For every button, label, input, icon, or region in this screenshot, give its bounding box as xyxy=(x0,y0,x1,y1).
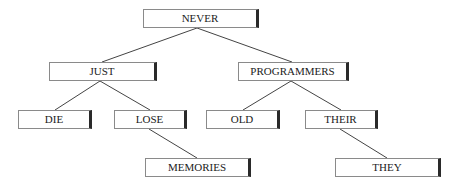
edge-lose-memories xyxy=(149,129,197,158)
node-programmers: PROGRAMMERS xyxy=(238,62,349,81)
edge-just-lose xyxy=(100,81,150,110)
node-they: THEY xyxy=(335,158,441,177)
node-old: OLD xyxy=(206,110,280,129)
node-their: THEIR xyxy=(305,110,378,129)
edge-never-just xyxy=(102,28,197,62)
node-die: DIE xyxy=(18,110,92,129)
node-memories: MEMORIES xyxy=(145,158,251,177)
edge-never-programmers xyxy=(197,28,292,62)
edge-programmers-old xyxy=(243,81,291,110)
edge-programmers-their xyxy=(291,81,341,110)
node-lose: LOSE xyxy=(114,110,187,129)
node-never: NEVER xyxy=(143,9,259,28)
edge-their-they xyxy=(340,129,387,158)
edge-just-die xyxy=(55,81,100,110)
node-just: JUST xyxy=(49,62,157,81)
